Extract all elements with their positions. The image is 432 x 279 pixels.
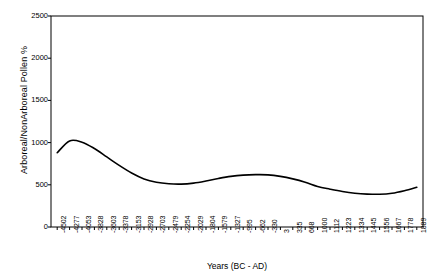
x-tick-label: 1445 xyxy=(370,218,377,233)
x-tick-label: 1334 xyxy=(358,218,365,233)
y-tick-label: 1500 xyxy=(16,95,48,104)
y-tick-label: 2500 xyxy=(16,11,48,20)
x-tick-label: -3603 xyxy=(110,216,117,233)
x-tick-label: -1579 xyxy=(221,216,228,233)
x-tick-label: 1889 xyxy=(420,218,427,233)
x-tick-label: -995 xyxy=(246,219,253,233)
y-tick-label: 1000 xyxy=(16,138,48,147)
x-axis-title: Years (BC - AD) xyxy=(51,261,423,271)
x-tick-label: -3828 xyxy=(97,216,104,233)
plot-area xyxy=(0,0,432,279)
x-tick-label: 1000 xyxy=(321,218,328,233)
x-tick-label: 1556 xyxy=(383,218,390,233)
x-tick-label: 668 xyxy=(308,222,315,233)
y-tick-label: 0 xyxy=(16,222,48,231)
x-tick-label: 1778 xyxy=(407,218,414,233)
x-tick-label: -2703 xyxy=(159,216,166,233)
x-tick-label: -1327 xyxy=(234,216,241,233)
x-tick-label: -4277 xyxy=(73,216,80,233)
x-tick-label: -662 xyxy=(259,219,266,233)
y-tick-label: 500 xyxy=(16,180,48,189)
x-tick-label: -2254 xyxy=(184,216,191,233)
chart-figure: Arboreal/NonArboreal Pollen % 2500200015… xyxy=(0,0,432,279)
x-tick-label: -330 xyxy=(271,219,278,233)
x-tick-label: -4053 xyxy=(85,216,92,233)
x-tick-label: -2029 xyxy=(197,216,204,233)
x-tick-label: -2928 xyxy=(147,216,154,233)
x-tick-label: -1804 xyxy=(209,216,216,233)
plot-frame xyxy=(51,16,423,227)
x-tick-label: 1112 xyxy=(333,219,340,233)
y-tick-label: 2000 xyxy=(16,53,48,62)
x-tick-label: 1667 xyxy=(395,218,402,233)
x-tick-label: -4502 xyxy=(60,216,67,233)
x-tick-label: -2479 xyxy=(172,216,179,233)
x-tick-label: -3153 xyxy=(135,216,142,233)
x-tick-label: 1223 xyxy=(345,218,352,233)
x-tick-label: 335 xyxy=(296,222,303,233)
x-tick-label: 3 xyxy=(283,229,290,233)
x-tick-label: -3378 xyxy=(122,216,129,233)
